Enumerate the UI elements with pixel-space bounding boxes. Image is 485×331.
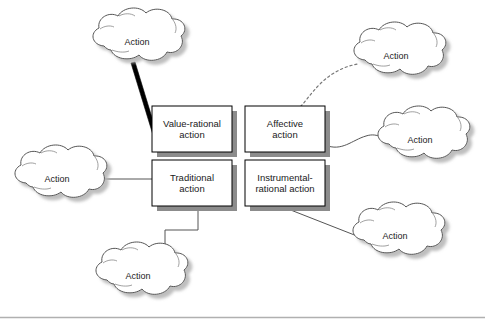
diagram-vector-layer (0, 0, 485, 331)
diagram-canvas: Value-rational action Affective action T… (0, 0, 485, 331)
connector-affective-to-right-middle (325, 135, 381, 147)
cloud-right-bottom (353, 202, 445, 254)
connector-instrumental-to-right-bottom (283, 207, 357, 236)
cloud-right-middle (378, 106, 470, 158)
box-instrumental-rational (245, 160, 330, 211)
cloud-top-right (354, 22, 446, 74)
connector-affective-to-top-right (297, 64, 358, 110)
box-value-rational (152, 106, 237, 157)
cloud-left (15, 145, 107, 197)
box-traditional (152, 160, 237, 211)
box-affective (245, 106, 330, 157)
cloud-top-left (93, 8, 185, 60)
cloud-bottom (96, 242, 188, 294)
